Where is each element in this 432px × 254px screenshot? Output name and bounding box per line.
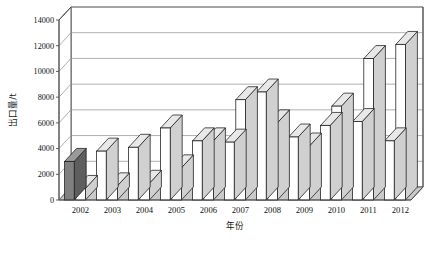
x-tick-label: 2011 (360, 205, 377, 215)
bar-side-face (266, 79, 278, 200)
x-tick-label: 2009 (296, 205, 313, 215)
bar-front-face (161, 128, 171, 200)
y-tick-label: 6000 (38, 119, 54, 128)
bar-front-face (65, 161, 75, 200)
y-tick-label: 4000 (38, 144, 54, 153)
y-tick-label: 12000 (34, 42, 54, 51)
y-axis-tick-labels: 02000400060008000100001200014000 (34, 16, 59, 205)
x-axis-title: 年份 (226, 220, 244, 231)
y-tick-label: 8000 (38, 93, 54, 102)
chart-container: 02000400060008000100001200014000 2002200… (0, 0, 432, 254)
bar-chart: 02000400060008000100001200014000 2002200… (0, 0, 432, 254)
bar-front-face (353, 122, 363, 200)
bar-front-face (385, 141, 395, 200)
x-tick-label: 2012 (392, 205, 409, 215)
y-tick-label: 10000 (34, 67, 54, 76)
bar (289, 124, 311, 200)
x-axis-category-labels: 2002200320042005200620072008200920102011… (72, 205, 409, 215)
x-tick-label: 2010 (328, 205, 345, 215)
y-tick-label: 0 (50, 196, 54, 205)
x-tick-label: 2008 (264, 205, 281, 215)
bar-front-face (257, 92, 267, 200)
bar (129, 134, 151, 200)
x-tick-label: 2002 (72, 205, 89, 215)
bar-side-face (170, 115, 182, 200)
bar-front-face (225, 142, 235, 200)
bar (257, 79, 279, 200)
bar (353, 109, 375, 200)
bar (193, 128, 215, 200)
bar-side-face (245, 87, 257, 200)
bar (225, 129, 247, 200)
bar-side-face (405, 31, 417, 200)
x-tick-label: 2007 (232, 205, 250, 215)
y-tick-label: 14000 (34, 16, 54, 25)
bar-side-face (277, 110, 289, 200)
bar-side-face (362, 109, 374, 200)
bar (161, 115, 183, 200)
bar-front-face (193, 141, 203, 200)
bar-front-face (97, 151, 107, 200)
x-tick-label: 2004 (136, 205, 154, 215)
bar (97, 138, 119, 200)
x-tick-label: 2003 (104, 205, 121, 215)
y-tick-label: 2000 (38, 170, 54, 179)
bar (321, 112, 343, 200)
bar-front-face (289, 137, 299, 200)
bar-side-face (373, 46, 385, 200)
x-tick-label: 2005 (168, 205, 185, 215)
bar-front-face (129, 147, 139, 200)
bar-side-face (330, 112, 342, 200)
x-tick-label: 2006 (200, 205, 218, 215)
bar (385, 128, 407, 200)
bar-front-face (321, 125, 331, 200)
y-axis-title: 出口量/t (7, 93, 18, 127)
bar-side-face (341, 93, 353, 200)
